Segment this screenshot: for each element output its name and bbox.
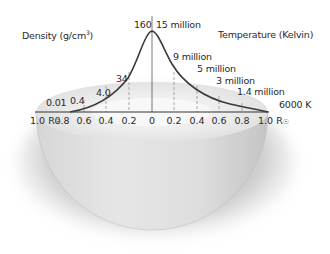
density-label: 0.01: [46, 98, 66, 108]
axis-tick-center: 0: [149, 116, 155, 126]
density-title: Density (g/cm3): [22, 30, 93, 41]
temperature-label: 1.4 million: [237, 87, 285, 97]
density-label: 0.4: [70, 96, 85, 106]
temperature-label: 5 million: [197, 64, 236, 74]
temperature-title: Temperature (Kelvin): [218, 30, 313, 40]
temperature-label: 9 million: [173, 52, 212, 62]
axis-tick: 0.6: [76, 116, 91, 126]
axis-tick: 0.4: [189, 116, 204, 126]
axis-tick: 0.8: [54, 116, 69, 126]
axis-tick: 0.2: [121, 116, 136, 126]
density-label: 4.0: [96, 88, 111, 98]
axis-tick: 0.8: [234, 116, 249, 126]
axis-tick: 0.2: [166, 116, 181, 126]
temperature-label-surface: 6000 K: [279, 100, 311, 110]
axis-tick: 0.4: [98, 116, 113, 126]
density-label-center: 160: [134, 20, 152, 30]
density-label: 34: [116, 74, 128, 84]
temperature-label-center: 15 million: [156, 20, 201, 30]
temperature-label: 3 million: [216, 76, 255, 86]
axis-tick: 0.6: [211, 116, 226, 126]
sun-interior-diagram: Density (g/cm3) Temperature (Kelvin) 160…: [0, 0, 330, 254]
axis-tick-right-edge: 1.0 R☉: [258, 116, 289, 126]
